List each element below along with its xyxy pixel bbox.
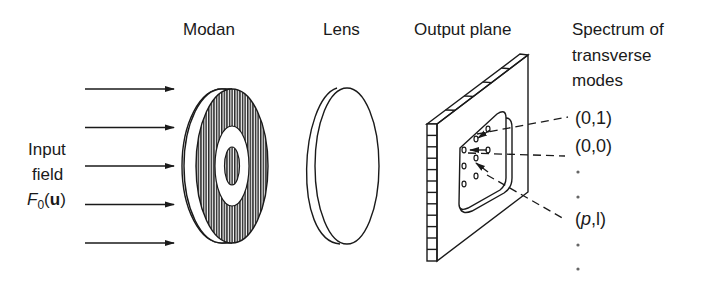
symbol-close-paren: ): [60, 190, 66, 209]
input-arrows: [85, 89, 174, 243]
lens-front-face: [315, 88, 379, 244]
modan: [182, 89, 268, 243]
plane-top-tick: [483, 82, 492, 83]
spot-arrow-pl: [476, 163, 488, 172]
plane-front-face: [437, 55, 528, 261]
output-plane-label: Output plane: [414, 20, 511, 39]
leader-line-00: [468, 153, 565, 156]
plane-window: [459, 112, 506, 210]
mode-pl-p: p: [580, 209, 591, 229]
spectrum-label-line2: transverse: [572, 46, 651, 65]
input-label-line2: field: [32, 165, 63, 184]
lens-label: Lens: [323, 20, 360, 39]
plane-top-tick: [501, 68, 509, 69]
lens: [307, 88, 379, 244]
mode-label-0-0: (0,0): [575, 136, 612, 156]
modan-center-spot: [225, 147, 240, 185]
plane-top-edge: [427, 54, 528, 124]
mode-ellipsis-dot: [576, 243, 579, 246]
mode-spot: [474, 173, 478, 179]
mode-spot: [462, 147, 466, 153]
mode-ellipsis-dot: [576, 170, 579, 173]
plane-edge-segments: [427, 68, 510, 249]
mode-spot: [474, 155, 478, 161]
input-label-line1: Input: [28, 140, 66, 159]
spectrum-label-line1: Spectrum of: [572, 20, 664, 39]
symbol-u: u: [50, 190, 60, 209]
mode-pl-rest: ,l): [591, 209, 606, 229]
mode-spot: [462, 163, 466, 169]
modan-label: Modan: [183, 20, 235, 39]
diagram: Modan Lens Output plane Spectrum of tran…: [0, 0, 724, 283]
mode-label-0-1: (0,1): [575, 108, 612, 128]
output-plane: [427, 54, 568, 261]
mode-ellipsis-dot: [576, 195, 579, 198]
mode-spot: [474, 136, 478, 142]
spectrum-label-line3: modes: [572, 71, 623, 90]
diagram-svg: Modan Lens Output plane Spectrum of tran…: [0, 0, 724, 283]
mode-list: (0,1) (0,0) (p,l): [575, 108, 612, 271]
mode-spot: [462, 181, 466, 187]
input-field-symbol: F0(u): [27, 190, 66, 212]
mode-label-p-l: (p,l): [575, 209, 606, 229]
mode-spots: [462, 126, 490, 187]
mode-ellipsis-dot: [576, 267, 579, 270]
